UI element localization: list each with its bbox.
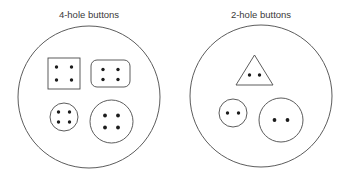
- button-hole: [101, 68, 104, 71]
- button-hole: [57, 120, 60, 123]
- large-round-button-4-holes: [90, 100, 133, 143]
- large-round-button-outline: [259, 98, 303, 142]
- button-hole: [237, 111, 240, 114]
- triangle-button-outline: [236, 55, 273, 85]
- triangle-button-2-holes: [236, 55, 273, 85]
- group-four-hole-buttons: 4-hole buttons: [18, 9, 160, 168]
- group-label-four-hole: 4-hole buttons: [59, 9, 119, 20]
- small-round-button-4-holes: [50, 103, 78, 131]
- square-button-outline: [48, 58, 80, 89]
- button-hole: [116, 126, 120, 130]
- small-round-button-2-holes: [219, 99, 247, 127]
- button-hole: [248, 73, 251, 76]
- button-hole: [70, 78, 73, 81]
- small-round-button-outline: [50, 103, 78, 131]
- button-hole: [55, 78, 58, 81]
- button-hole: [286, 118, 290, 122]
- button-hole: [55, 65, 58, 68]
- button-hole: [101, 78, 104, 81]
- square-button-4-holes: [48, 58, 80, 89]
- button-hole: [57, 110, 60, 113]
- rounded-rectangle-button-4-holes: [91, 60, 130, 87]
- set-ring-four-hole: [18, 26, 160, 168]
- button-hole: [258, 73, 261, 76]
- group-label-two-hole: 2-hole buttons: [231, 9, 291, 20]
- group-two-hole-buttons: 2-hole buttons: [190, 9, 332, 167]
- large-round-button-2-holes: [259, 98, 303, 142]
- button-hole: [116, 114, 120, 118]
- button-hole: [68, 120, 71, 123]
- rounded-rectangle-button-outline: [91, 60, 130, 87]
- button-hole: [116, 78, 119, 81]
- small-round-button-outline: [219, 99, 247, 127]
- set-diagram-svg: 4-hole buttons: [0, 0, 348, 179]
- button-hole: [70, 65, 73, 68]
- button-hole: [273, 118, 277, 122]
- large-round-button-outline: [90, 100, 133, 143]
- button-hole: [116, 68, 119, 71]
- button-hole: [68, 110, 71, 113]
- diagram-canvas: 4-hole buttons: [0, 0, 348, 179]
- set-ring-two-hole: [190, 25, 332, 167]
- button-hole: [103, 114, 107, 118]
- button-hole: [103, 126, 107, 130]
- button-hole: [226, 111, 229, 114]
